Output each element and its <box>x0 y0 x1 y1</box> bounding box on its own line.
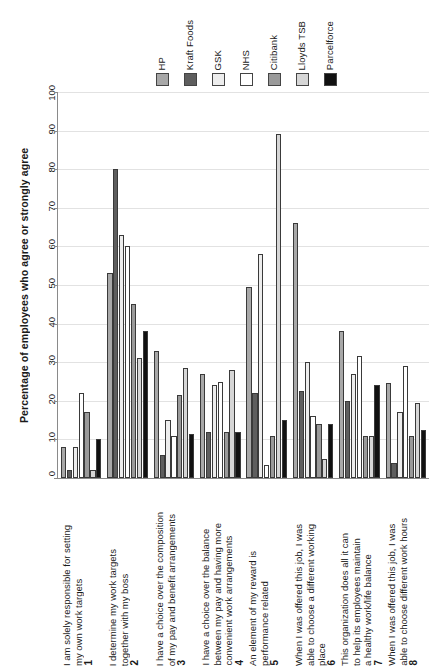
bar <box>310 416 315 478</box>
x-axis-caption: 8When I was offered this job, I was able… <box>382 488 419 666</box>
bar <box>131 304 136 478</box>
bar <box>369 436 374 478</box>
bar-group <box>244 92 290 478</box>
bar <box>264 465 269 479</box>
x-axis-caption: 3I have a choice over the composition of… <box>150 488 187 666</box>
bar-group <box>58 92 104 478</box>
bar <box>246 287 251 478</box>
legend-item: Citibank <box>262 35 286 86</box>
x-axis-caption-text: This organization does all it can to hel… <box>339 533 374 666</box>
bar <box>339 331 344 478</box>
x-axis-caption-text: I am solely responsible for setting my o… <box>61 525 84 666</box>
bar <box>276 134 281 478</box>
bar <box>363 436 368 478</box>
bar <box>189 434 194 478</box>
bar <box>391 463 396 478</box>
bar <box>137 358 142 478</box>
bar <box>160 455 165 478</box>
bar <box>293 223 298 478</box>
bar <box>322 459 327 478</box>
x-axis-caption-number: 8 <box>409 660 419 666</box>
x-axis-caption-number: 1 <box>84 660 94 666</box>
x-axis-caption: 6When I was offered this job, I was able… <box>289 488 338 666</box>
bar <box>229 370 234 478</box>
legend-item: Kraft Foods <box>178 20 202 86</box>
x-axis-captions: 1I am solely responsible for setting my … <box>30 486 440 666</box>
bar <box>84 412 89 478</box>
bar <box>224 432 229 478</box>
bar <box>154 351 159 478</box>
bar <box>125 246 130 478</box>
x-axis-caption: 5An element of my reward is performance … <box>243 488 280 666</box>
bar <box>218 382 223 479</box>
bar <box>90 470 95 478</box>
bar <box>183 368 188 478</box>
y-axis-ticks: 0102030405060708090100 <box>33 86 55 482</box>
x-axis-caption: 2I determine my work targets together wi… <box>103 488 140 666</box>
bar-group <box>151 92 197 478</box>
x-axis-caption: 7This organization does all it can to he… <box>335 488 384 666</box>
bar <box>252 393 257 478</box>
legend-swatch <box>268 73 281 86</box>
x-axis-caption-number: 5 <box>270 660 280 666</box>
legend-label: Parcelforce <box>325 21 335 70</box>
plot-area <box>57 92 429 479</box>
x-axis-caption-text: I have a choice over the composition of … <box>154 512 177 666</box>
x-axis-caption-text: I have a choice over the balance between… <box>200 523 235 666</box>
legend-swatch <box>184 73 197 86</box>
bar <box>328 424 333 478</box>
bar <box>270 436 275 478</box>
y-tick-mark <box>54 478 58 479</box>
bar <box>200 374 205 478</box>
x-axis-caption: 1I am solely responsible for setting my … <box>57 488 94 666</box>
legend-label: Kraft Foods <box>185 20 195 70</box>
bar <box>409 436 414 478</box>
legend-item: GSK <box>206 50 230 86</box>
y-axis-title: Percentage of employees who agree or str… <box>18 120 32 450</box>
bar <box>212 385 217 478</box>
bar <box>299 391 304 478</box>
legend-swatch <box>156 73 169 86</box>
bar <box>73 447 78 478</box>
bar <box>415 403 420 478</box>
legend-label: NHS <box>241 50 251 70</box>
bar-group <box>104 92 150 478</box>
bar <box>177 395 182 478</box>
legend-label: GSK <box>213 50 223 70</box>
x-axis-caption: 4I have a choice over the balance betwee… <box>196 488 245 666</box>
x-axis-caption-text: An element of my reward is performance r… <box>247 551 270 666</box>
x-axis-caption-text: When I was offered this job, I was able … <box>293 524 328 666</box>
legend-item: NHS <box>234 50 258 86</box>
bar <box>374 385 379 478</box>
legend-item: Lloyds TSB <box>290 21 314 86</box>
bar <box>345 401 350 478</box>
bar <box>357 356 362 478</box>
bar <box>316 424 321 478</box>
bar <box>113 169 118 478</box>
bar <box>107 273 112 478</box>
bar <box>143 331 148 478</box>
legend-item: Parcelforce <box>318 21 342 86</box>
bar-groups <box>58 92 429 478</box>
bar <box>397 412 402 478</box>
bar <box>206 432 211 478</box>
legend-label: Citibank <box>269 35 279 70</box>
bar <box>96 439 101 478</box>
legend-swatch <box>296 73 309 86</box>
legend-label: HP <box>157 57 167 70</box>
bar-group <box>383 92 429 478</box>
legend-swatch <box>240 73 253 86</box>
bar <box>351 374 356 478</box>
bar <box>386 383 391 478</box>
bar-group <box>197 92 243 478</box>
x-axis-caption-number: 3 <box>177 660 187 666</box>
x-axis-caption-number: 2 <box>130 660 140 666</box>
bar <box>165 420 170 478</box>
legend-swatch <box>212 73 225 86</box>
x-axis-caption-text: I determine my work targets together wit… <box>107 549 130 666</box>
bar <box>403 366 408 478</box>
legend-label: Lloyds TSB <box>297 21 307 70</box>
bar <box>61 447 66 478</box>
bar <box>421 430 426 478</box>
chart-legend: HPKraft FoodsGSKNHSCitibankLloyds TSBPar… <box>150 4 350 86</box>
